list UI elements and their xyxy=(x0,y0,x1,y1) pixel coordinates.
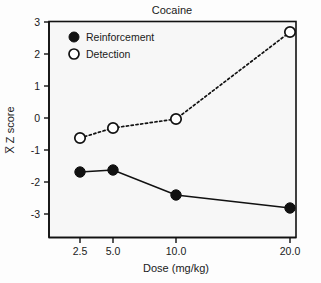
x-axis-title: Dose (mg/kg) xyxy=(143,262,209,274)
reinforcement-point-20p0 xyxy=(285,203,295,213)
chart-figure: Cocaine 3 2 1 0 -1 -2 -3 X xyxy=(0,0,321,283)
y-axis-tick-labels: 3 2 1 0 -1 -2 -3 xyxy=(31,16,41,220)
cocaine-z-score-line-chart: Cocaine 3 2 1 0 -1 -2 -3 X xyxy=(0,0,321,283)
x-tick-label-2p5: 2.5 xyxy=(73,245,88,257)
y-tick-label-neg1: -1 xyxy=(31,144,40,156)
x-tick-label-5p0: 5.0 xyxy=(106,245,121,257)
y-axis: 3 2 1 0 -1 -2 -3 X̅ Z score xyxy=(4,16,49,238)
detection-point-20p0 xyxy=(285,27,295,37)
detection-point-10p0 xyxy=(171,114,181,124)
x-axis-ticks xyxy=(80,238,290,244)
y-tick-label-neg3: -3 xyxy=(31,208,40,220)
filled-circle-icon xyxy=(69,32,79,42)
legend-label-reinforcement: Reinforcement xyxy=(86,31,154,43)
detection-point-2p5 xyxy=(75,133,85,143)
reinforcement-point-10p0 xyxy=(171,190,181,200)
detection-point-5p0 xyxy=(108,123,118,133)
y-tick-label-2: 2 xyxy=(34,48,40,60)
y-tick-label-3: 3 xyxy=(34,16,40,28)
x-tick-label-10p0: 10.0 xyxy=(166,245,187,257)
chart-title: Cocaine xyxy=(152,4,192,16)
y-tick-label-neg2: -2 xyxy=(31,176,40,188)
y-tick-label-1: 1 xyxy=(34,80,40,92)
y-axis-title: X̅ Z score xyxy=(4,106,16,153)
open-circle-icon xyxy=(69,49,79,59)
x-axis-tick-labels: 2.5 5.0 10.0 20.0 xyxy=(73,245,301,257)
y-tick-label-0: 0 xyxy=(34,112,40,124)
x-axis: 2.5 5.0 10.0 20.0 Dose (mg/kg) xyxy=(49,238,300,275)
x-tick-label-20p0: 20.0 xyxy=(280,245,301,257)
reinforcement-point-2p5 xyxy=(75,167,85,177)
legend-label-detection: Detection xyxy=(86,48,131,60)
reinforcement-point-5p0 xyxy=(108,165,118,175)
